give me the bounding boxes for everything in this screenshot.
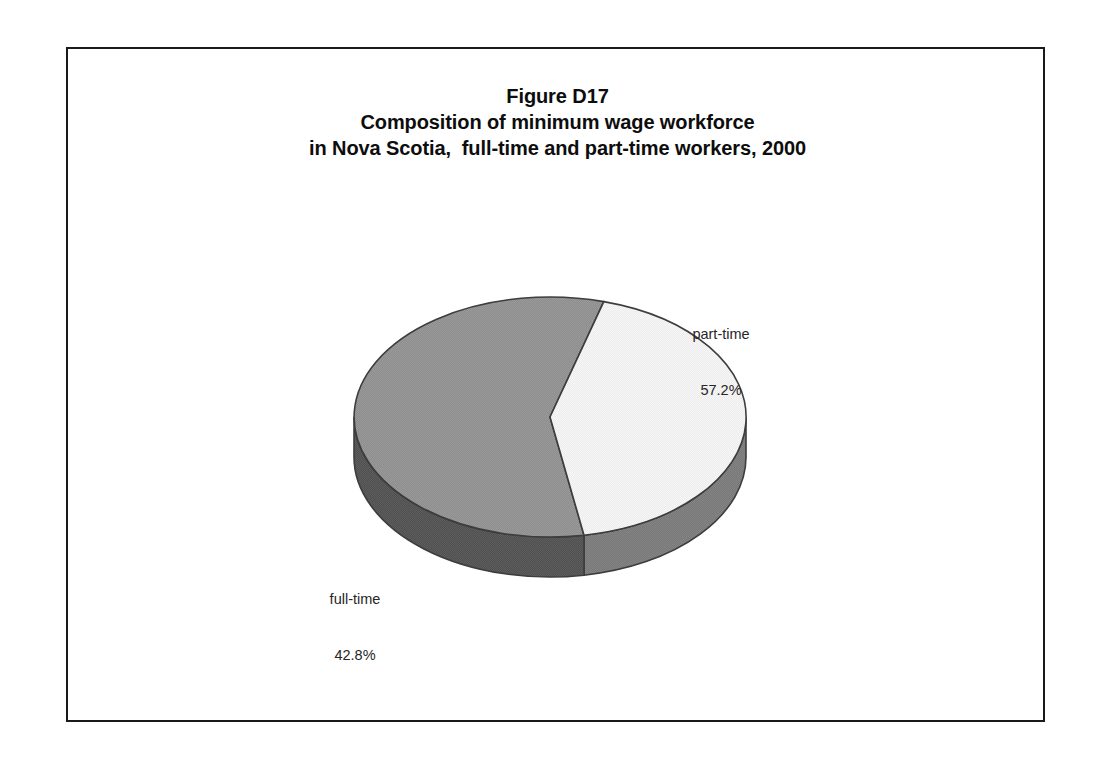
data-label-part-time-name: part-time bbox=[646, 325, 796, 344]
figure-frame: Figure D17 Composition of minimum wage w… bbox=[66, 47, 1045, 722]
data-label-full-time-value: 42.8% bbox=[280, 646, 430, 665]
data-label-full-time-name: full-time bbox=[280, 590, 430, 609]
data-label-part-time: part-time 57.2% bbox=[646, 287, 796, 438]
figure-page: Figure D17 Composition of minimum wage w… bbox=[0, 0, 1105, 760]
pie-chart-graphic bbox=[68, 49, 1047, 724]
data-label-full-time: full-time 42.8% bbox=[280, 552, 430, 703]
pie-chart-plot-area: part-time 57.2% full-time 42.8% bbox=[68, 49, 1047, 724]
data-label-part-time-value: 57.2% bbox=[646, 381, 796, 400]
